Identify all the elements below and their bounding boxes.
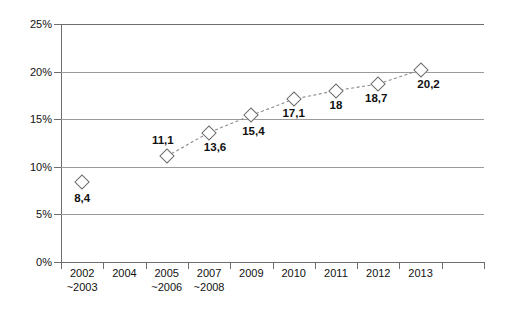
x-axis-category-line1: 2005 — [155, 267, 179, 279]
gridline — [61, 119, 484, 120]
x-axis-category-line2: ~2003 — [67, 280, 98, 294]
gridline — [61, 167, 484, 168]
x-axis-category-label: 2012 — [366, 266, 390, 280]
x-axis-category-label: 2009 — [239, 266, 263, 280]
chart-container: 0%5%10%15%20%25% 8,411,113,615,417,11818… — [0, 0, 512, 313]
x-axis-category-label: 2010 — [281, 266, 305, 280]
y-axis-tick-label: 20% — [6, 66, 52, 77]
gridline — [61, 214, 484, 215]
x-axis-category-label: 2004 — [112, 266, 136, 280]
x-axis-category-line1: 2002 — [70, 267, 94, 279]
y-axis-tick-label: 0% — [6, 257, 52, 268]
x-axis-category-label: 2002~2003 — [67, 266, 98, 294]
x-axis-category-label: 2011 — [324, 266, 348, 280]
y-axis-tick-mark — [54, 167, 61, 168]
x-axis-tick-mark — [484, 262, 485, 269]
y-axis-tick-label: 25% — [6, 19, 52, 30]
y-axis-tick-mark — [54, 119, 61, 120]
y-axis-tick-mark — [54, 72, 61, 73]
y-axis-tick-label: 10% — [6, 161, 52, 172]
x-axis-category-label: 2005~2006 — [151, 266, 182, 294]
x-axis-category-line2: ~2006 — [151, 280, 182, 294]
y-axis-tick-mark — [54, 262, 61, 263]
x-axis-category-line1: 2010 — [281, 267, 305, 279]
y-axis-tick-mark — [54, 24, 61, 25]
x-axis-labels: 2002~200320042005~20062007~2008200920102… — [61, 266, 484, 313]
x-axis-category-line1: 2007 — [197, 267, 221, 279]
y-axis-labels: 0%5%10%15%20%25% — [6, 0, 52, 313]
x-axis-category-label: 2013 — [408, 266, 432, 280]
x-axis-category-line1: 2013 — [408, 267, 432, 279]
x-axis-category-line1: 2011 — [324, 267, 348, 279]
plot-area — [61, 24, 484, 262]
y-axis-tick-mark — [54, 214, 61, 215]
y-axis-tick-label: 15% — [6, 114, 52, 125]
gridline — [61, 24, 484, 25]
x-axis-category-line1: 2009 — [239, 267, 263, 279]
x-axis-category-line1: 2012 — [366, 267, 390, 279]
y-axis-tick-label: 5% — [6, 209, 52, 220]
x-axis-category-line1: 2004 — [112, 267, 136, 279]
gridline — [61, 72, 484, 73]
x-axis-category-line2: ~2008 — [194, 280, 225, 294]
x-axis-category-label: 2007~2008 — [194, 266, 225, 294]
